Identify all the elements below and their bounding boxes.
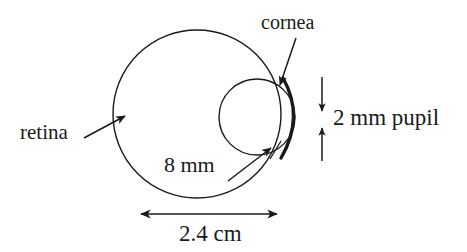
retina-label: retina bbox=[20, 122, 68, 143]
pupil-size-label: 2 mm pupil bbox=[333, 106, 439, 129]
eye-diameter-label: 2.4 cm bbox=[179, 222, 242, 245]
cornea-label: cornea bbox=[261, 12, 314, 32]
lens-circle bbox=[219, 79, 295, 155]
cornea-leader-arrow bbox=[280, 38, 296, 85]
retina-leader-arrow bbox=[84, 116, 125, 138]
eye-diagram-figure: cornea retina 8 mm 2 mm pupil 2.4 cm bbox=[0, 0, 467, 252]
lens-radius-label: 8 mm bbox=[164, 154, 215, 176]
